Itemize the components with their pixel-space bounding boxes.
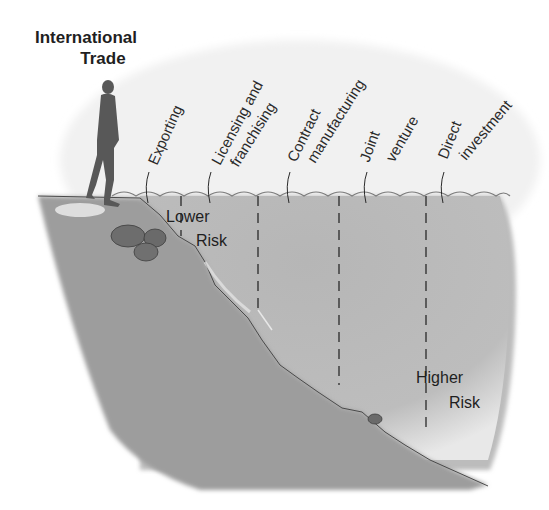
diagram-title: International Trade (35, 28, 137, 68)
title-line-2: Trade (80, 49, 125, 68)
rock-deep (368, 414, 382, 424)
spotlight (55, 203, 105, 217)
higher-risk-line2: Risk (449, 394, 481, 411)
higher-risk-line1: Higher (416, 369, 464, 386)
international-trade-diagram: International Trade Exporting Licensing … (0, 0, 549, 510)
lower-risk-line1: Lower (166, 208, 210, 225)
lower-risk-line2: Risk (196, 232, 228, 249)
title-line-1: International (35, 28, 137, 47)
